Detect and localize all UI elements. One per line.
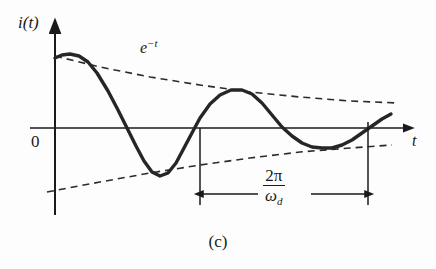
period-denominator: ωd	[263, 186, 285, 207]
envelope-label: e−t	[140, 38, 158, 56]
origin-label: 0	[31, 133, 40, 150]
envelope-exponent: −t	[147, 37, 157, 49]
x-axis-label: t	[412, 133, 416, 149]
period-numerator: 2π	[263, 167, 284, 185]
damped-oscillation-curve	[55, 54, 391, 176]
figure-container: i(t) 0 t e−t 2π ωd (c)	[0, 0, 436, 269]
upper-envelope-curve	[55, 56, 398, 103]
figure-caption: (c)	[0, 232, 436, 252]
oscillation-plot	[0, 0, 436, 269]
omega-subscript: d	[277, 195, 283, 207]
y-axis-label: i(t)	[18, 14, 39, 31]
lower-envelope-curve	[47, 145, 392, 192]
period-dimension-label: 2π ωd	[258, 167, 290, 207]
omega-symbol: ω	[265, 186, 277, 205]
